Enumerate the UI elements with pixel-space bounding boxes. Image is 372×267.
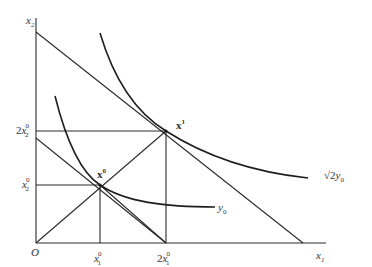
isoquant-y0-label: y0 bbox=[217, 201, 227, 216]
point-x1-label: x1 bbox=[176, 118, 186, 131]
budget-line-small bbox=[36, 138, 166, 243]
y-tick-2x20: 2x02 bbox=[16, 122, 29, 139]
budget-line-large bbox=[36, 32, 303, 243]
isoquant-sqrt2-y0 bbox=[100, 33, 308, 178]
diagram-canvas: x2 x1 O x01 2x01 x02 2x02 x0 x1 y0 √2y0 bbox=[0, 0, 372, 267]
y-axis-label: x2 bbox=[25, 14, 35, 29]
isoquant-y0 bbox=[55, 96, 215, 207]
point-x1-marker bbox=[164, 129, 167, 132]
x-tick-x10: x01 bbox=[93, 250, 102, 267]
x-axis-label: x1 bbox=[315, 249, 324, 264]
x-tick-2x10: 2x01 bbox=[157, 250, 170, 267]
point-x0-marker bbox=[98, 183, 101, 186]
diagonal-x0-to-2x1 bbox=[100, 185, 166, 243]
point-x0-label: x0 bbox=[97, 167, 107, 180]
y-tick-x20: x02 bbox=[21, 176, 30, 193]
origin-label: O bbox=[31, 246, 39, 258]
isoquant-sqrt2-y0-label: √2y0 bbox=[324, 169, 344, 184]
